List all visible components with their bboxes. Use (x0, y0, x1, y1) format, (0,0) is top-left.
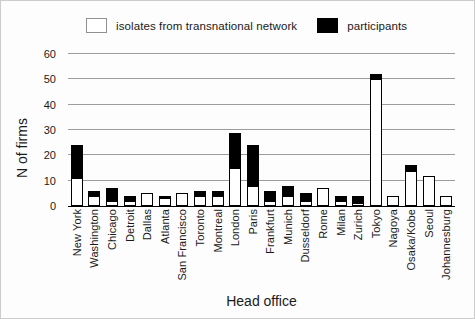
x-tick-slot: Milan (332, 209, 350, 281)
bars-layer (68, 54, 455, 206)
y-tick-label-40: 40 (44, 99, 56, 111)
bar-segment-isolates (159, 198, 171, 206)
x-tick-label-paris: Paris (247, 209, 259, 235)
bar-segment-participants (300, 193, 312, 201)
x-tick-slot: Tokyo (367, 209, 385, 281)
x-tick-slot: Osaka/Kobe (402, 209, 420, 281)
bar-stack (440, 196, 452, 206)
x-tick-slot: Munich (279, 209, 297, 281)
bar-segment-isolates (194, 196, 206, 206)
bar-slot-rome (314, 188, 332, 206)
bar-stack (247, 145, 259, 206)
x-tick-label-milan: Milan (335, 209, 347, 236)
x-tick-label-atlanta: Atlanta (159, 209, 171, 244)
x-tick-slot: Rome (314, 209, 332, 281)
x-tick-label-san-francisco: San Francisco (176, 209, 188, 281)
y-tick-label-20: 20 (44, 149, 56, 161)
bar-slot-seoul (420, 176, 438, 206)
bar-slot-toronto (191, 191, 209, 206)
bar-segment-isolates (317, 188, 329, 206)
bar-slot-milan (332, 196, 350, 206)
legend-label-participants: participants (347, 20, 407, 32)
bar-slot-montreal (209, 191, 227, 206)
bar-segment-isolates (282, 196, 294, 206)
legend: isolates from transnational network part… (86, 18, 407, 33)
bar-slot-paris (244, 145, 262, 206)
x-tick-label-osaka-kobe: Osaka/Kobe (405, 209, 417, 271)
bar-stack (317, 188, 329, 206)
bar-stack (229, 133, 241, 206)
x-axis-line (68, 206, 455, 207)
y-axis-title: N of firms (14, 98, 30, 198)
bar-slot-london (226, 133, 244, 206)
bar-segment-participants (352, 196, 364, 204)
bar-segment-isolates (440, 196, 452, 206)
x-tick-label-tokyo: Tokyo (370, 209, 382, 238)
bar-stack (159, 196, 171, 206)
bar-segment-participants (247, 145, 259, 186)
x-tick-slot: Montreal (209, 209, 227, 281)
bar-segment-isolates (247, 186, 259, 206)
x-tick-label-detroit: Detroit (124, 209, 136, 242)
y-tick-label-10: 10 (44, 175, 56, 187)
x-tick-label-johannesburg: Johannesburg (440, 209, 452, 280)
x-tick-slot: Toronto (191, 209, 209, 281)
bar-stack (423, 176, 435, 206)
legend-item-participants: participants (317, 18, 407, 33)
stacked-bar-chart: isolates from transnational network part… (0, 0, 475, 319)
bar-slot-san-francisco (174, 193, 192, 206)
y-tick-label-60: 60 (44, 48, 56, 60)
bar-stack (387, 196, 399, 206)
x-tick-label-rome: Rome (317, 209, 329, 239)
x-axis-tick-labels: New YorkWashingtonChicagoDetroitDallasAt… (68, 209, 455, 281)
bar-slot-chicago (103, 188, 121, 206)
bar-stack (71, 145, 83, 206)
bar-segment-isolates (141, 193, 153, 206)
bar-stack (141, 193, 153, 206)
x-tick-label-toronto: Toronto (194, 209, 206, 246)
plot-area (68, 54, 455, 206)
bar-segment-participants (282, 186, 294, 196)
legend-label-isolates: isolates from transnational network (116, 20, 297, 32)
legend-swatch-participants (317, 18, 338, 33)
x-tick-label-nagoya: Nagoya (387, 209, 399, 248)
x-tick-label-frankfurt: Frankfurt (264, 209, 276, 254)
bar-segment-isolates (423, 176, 435, 206)
x-tick-slot: Paris (244, 209, 262, 281)
bar-segment-isolates (176, 193, 188, 206)
x-tick-label-dusseldorf: Dusseldorf (299, 209, 311, 263)
x-tick-label-washington: Washington (88, 209, 100, 268)
bar-slot-dallas (138, 193, 156, 206)
bar-stack (264, 191, 276, 206)
bar-slot-frankfurt (262, 191, 280, 206)
y-axis-tick-labels: 0102030405060 (0, 54, 62, 206)
bar-stack (370, 74, 382, 206)
x-tick-slot: Dallas (138, 209, 156, 281)
bar-stack (106, 188, 118, 206)
bar-segment-participants (106, 188, 118, 201)
bar-stack (88, 191, 100, 206)
x-tick-slot: London (226, 209, 244, 281)
bar-stack (212, 191, 224, 206)
bar-slot-new-york (68, 145, 86, 206)
x-tick-slot: Washington (86, 209, 104, 281)
bar-stack (124, 196, 136, 206)
bar-segment-isolates (212, 196, 224, 206)
x-tick-label-zurich: Zurich (352, 209, 364, 240)
x-tick-slot: Seoul (420, 209, 438, 281)
x-tick-slot: Dusseldorf (297, 209, 315, 281)
x-axis-title: Head office (68, 293, 455, 309)
bar-stack (335, 196, 347, 206)
y-tick-label-30: 30 (44, 124, 56, 136)
bar-slot-tokyo (367, 74, 385, 206)
x-tick-label-new-york: New York (71, 209, 83, 256)
bar-segment-isolates (71, 178, 83, 206)
x-tick-slot: San Francisco (174, 209, 192, 281)
bar-slot-munich (279, 186, 297, 206)
x-tick-label-chicago: Chicago (106, 209, 118, 250)
bar-stack (194, 191, 206, 206)
bar-stack (176, 193, 188, 206)
bar-stack (352, 196, 364, 206)
x-tick-label-munich: Munich (282, 209, 294, 245)
bar-stack (300, 193, 312, 206)
